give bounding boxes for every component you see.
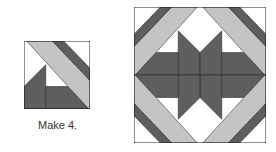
quilt-unit-diagram	[24, 41, 90, 109]
make-count-caption: Make 4.	[38, 119, 77, 131]
quilt-block-diagram	[134, 7, 266, 143]
